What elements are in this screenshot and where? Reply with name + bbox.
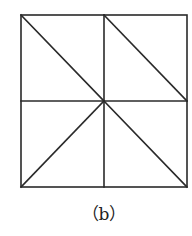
figure-caption: （b）	[0, 200, 192, 225]
diagonal-topleft-to-center	[21, 15, 104, 101]
diagonal-topmid-to-rightmid	[104, 15, 187, 101]
diagonal-center-to-bottomright	[104, 101, 187, 187]
diagonal-center-to-bottomleft	[21, 101, 104, 187]
